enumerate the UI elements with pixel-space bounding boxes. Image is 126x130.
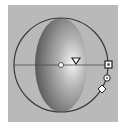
tilt-handle-dot-icon	[106, 77, 108, 79]
center-handle-icon[interactable]	[59, 63, 64, 68]
rotation-handle-dot-icon	[107, 63, 109, 65]
light-gizmo[interactable]	[0, 0, 126, 130]
